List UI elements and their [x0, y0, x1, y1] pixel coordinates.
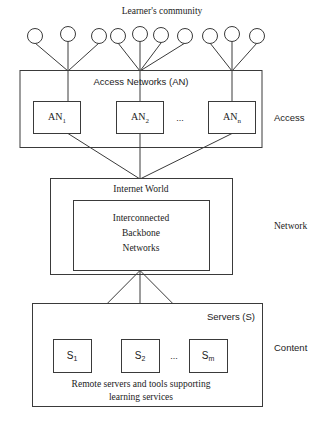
backbone-line-1: Interconnected	[113, 213, 170, 223]
learner-node	[133, 27, 148, 42]
access-networks-header: Access Networks (AN)	[93, 76, 188, 87]
servers-header: Servers (S)	[207, 311, 255, 322]
access-side-label: Access	[274, 112, 305, 123]
content-side-label: Content	[274, 342, 308, 353]
diagram-canvas: Learner's community	[0, 0, 324, 429]
learner-cluster-3	[203, 27, 265, 72]
internet-world-header: Internet World	[113, 184, 169, 194]
learner-node	[92, 29, 107, 44]
content-ellipsis: ...	[170, 351, 178, 361]
learner-node	[154, 28, 169, 43]
learner-node	[111, 29, 126, 44]
learner-spoke	[35, 43, 68, 71]
learner-node	[61, 27, 76, 42]
access-ellipsis: ...	[176, 113, 184, 123]
network-architecture-diagram: Learner's community	[0, 0, 324, 429]
network-side-label: Network	[274, 221, 307, 231]
learner-spoke	[232, 43, 257, 71]
learner-cluster-1	[28, 27, 107, 72]
backbone-line-3: Networks	[123, 243, 160, 253]
learner-spoke	[140, 43, 185, 71]
learner-spoke	[140, 43, 161, 71]
learner-node	[178, 29, 193, 44]
learners-community-label: Learner's community	[122, 6, 203, 16]
learner-spoke	[118, 43, 140, 71]
learner-node	[225, 27, 240, 42]
learner-node	[28, 29, 43, 44]
learner-spoke	[68, 43, 99, 71]
content-caption-line-1: Remote servers and tools supporting	[72, 379, 211, 389]
learner-node	[203, 29, 218, 44]
backbone-line-2: Backbone	[122, 228, 160, 238]
learner-cluster-2	[111, 27, 193, 72]
learner-spoke	[210, 43, 232, 71]
content-caption-line-2: learning services	[109, 392, 173, 402]
learner-node	[250, 29, 265, 44]
